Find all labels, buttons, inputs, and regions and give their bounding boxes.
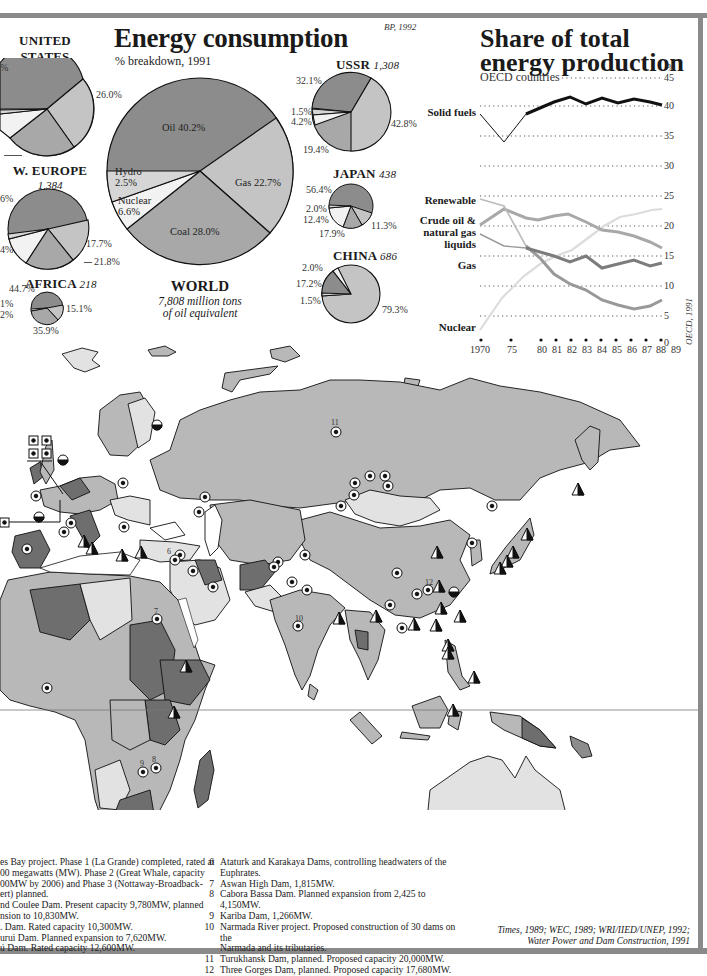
pie-china-pct-nuclear: 1.5% <box>300 295 321 306</box>
pie-weurope-pct-nuclear: 4% <box>0 244 13 255</box>
pie-japan-name: JAPAN <box>333 166 376 181</box>
pie-japan-heading: JAPAN 438 <box>333 166 396 182</box>
note-line: 10Narmada River project. Proposed constr… <box>200 922 460 944</box>
pie-japan-pct-oil: 56.4% <box>306 184 332 195</box>
y-tick-25: 25 <box>664 190 674 201</box>
y-tick-5: 5 <box>664 310 669 321</box>
note-line: Euphrates. <box>200 868 460 879</box>
pie-us-pct-oil: % <box>0 62 8 73</box>
pie-us <box>0 58 100 160</box>
source-bp: BP, 1992 <box>384 22 416 32</box>
map-label-12: 12 <box>425 578 433 587</box>
pie-japan-pct-nuclear: 12.4% <box>303 214 329 225</box>
pie-world-nuclear-label: Nuclear6.6% <box>118 195 151 217</box>
svalbard <box>62 348 100 372</box>
map-label-8: 8 <box>152 755 156 764</box>
pie-china-value: 686 <box>380 250 397 262</box>
y-tick-30: 30 <box>664 160 674 171</box>
pie-ussr-pct-nuclear: 4.2% <box>291 116 312 127</box>
madagascar <box>194 750 214 808</box>
pie-africa <box>29 290 65 326</box>
pie-china-pct-oil: 17.2% <box>296 278 322 289</box>
notes-right: 6Ataturk and Karakaya Dams, controlling … <box>200 857 460 976</box>
pie-us-leader <box>4 155 22 156</box>
pie-africa-pct-hydro: 1% <box>0 298 13 309</box>
y-tick-45: 45 <box>664 72 674 83</box>
map-credit: Times, 1989; WEC, 1989; WRI/IIED/UNEP, 1… <box>440 925 690 947</box>
share-title: Share of totalenergy production <box>480 27 684 75</box>
pie-ussr-pct-coal: 19.4% <box>303 144 329 155</box>
map-label-11: 11 <box>331 418 339 427</box>
pie-china-pct-coal: 79.3% <box>382 304 408 315</box>
pie-japan <box>327 182 375 230</box>
y-tick-40: 40 <box>664 100 674 111</box>
top-rule <box>0 13 707 18</box>
map-label-7: 7 <box>154 607 158 616</box>
page-subtitle: % breakdown, 1991 <box>115 54 211 69</box>
pie-africa-pct-gas: 15.1% <box>66 303 92 314</box>
pie-weurope-pct-oil: 6% <box>0 193 13 204</box>
right-rule <box>698 13 703 954</box>
series-label-renewable: Renewable <box>396 194 476 206</box>
note-line: 8Cabora Bassa Dam. Planned expansion fro… <box>200 889 460 911</box>
world-map <box>0 330 698 810</box>
page-title: Energy consumption <box>114 25 348 52</box>
pie-japan-pct-coal: 17.9% <box>319 228 345 239</box>
pie-world-gas-label: Gas 22.7% <box>235 177 281 188</box>
share-line-chart <box>478 72 690 332</box>
pie-japan-value: 438 <box>379 168 396 180</box>
pie-africa-value: 218 <box>80 278 97 290</box>
australia <box>428 756 565 810</box>
y-tick-35: 35 <box>664 130 674 141</box>
pie-japan-pct-hydro: 2.0% <box>306 203 327 214</box>
pie-world-caption: WORLD 7,808 million tonsof oil equivalen… <box>150 278 250 319</box>
pie-world-coal-label: Coal 28.0% <box>170 226 220 237</box>
y-tick-15: 15 <box>664 250 674 261</box>
india <box>270 590 345 690</box>
pie-world-name: WORLD <box>150 278 250 295</box>
pie-china <box>320 263 382 325</box>
map-label-10: 10 <box>295 614 303 623</box>
pie-china-name: CHINA <box>333 248 377 263</box>
note-line: 12Three Gorges Dam, planned. Proposed ca… <box>200 965 460 976</box>
pie-weurope-name: W. EUROPE <box>8 163 92 179</box>
pie-africa-pct-nuclear: 2% <box>0 309 13 320</box>
pie-world-hydro-label: Hydro2.5% <box>115 166 142 188</box>
pie-china-pct-hydro: 2.0% <box>302 262 323 273</box>
y-tick-10: 10 <box>664 280 674 291</box>
pie-world-total: 7,808 million tonsof oil equivalent <box>130 295 270 319</box>
pie-china-heading: CHINA 686 <box>333 248 397 264</box>
square-markers <box>0 436 63 527</box>
pie-africa-pct-oil: 44.7% <box>9 283 35 294</box>
russia <box>150 378 640 508</box>
map-label-6: 6 <box>167 547 171 556</box>
series-label-gas: Gas <box>396 259 476 271</box>
pie-ussr <box>310 70 392 154</box>
map-label-9: 9 <box>140 759 144 768</box>
pie-world-oil-label: Oil 40.2% <box>162 122 205 133</box>
pie-ussr-pct-gas: 42.8% <box>391 118 417 129</box>
pie-japan-pct-gas: 11.3% <box>371 220 396 231</box>
series-label-solid-fuels: Solid fuels <box>396 106 476 118</box>
pie-weurope <box>6 187 90 271</box>
series-label-crude-oil: Crude oil &natural gasliquids <box>396 214 476 250</box>
pie-ussr-pct-oil: 32.1% <box>296 75 322 86</box>
y-tick-20: 20 <box>664 220 674 231</box>
